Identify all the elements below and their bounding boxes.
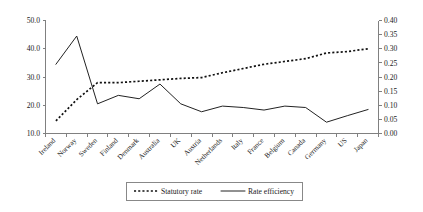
right-axis-tick-labels: 0.000.050.100.150.200.250.300.350.40 (384, 16, 397, 138)
x-axis-category-label: Italy (230, 136, 245, 151)
left-axis-tick-label: 30.0 (27, 73, 40, 82)
x-axis-category-label: Norway (56, 136, 78, 158)
left-axis-tick-label: 20.0 (27, 101, 40, 110)
chart-container: 10.020.030.040.050.0 0.000.050.100.150.2… (0, 0, 423, 212)
legend-label-rate-efficiency: Rate efficiency (248, 187, 294, 196)
chart-legend: Statutory rate Rate efficiency (126, 182, 302, 200)
right-axis-tick-label: 0.40 (384, 16, 397, 25)
right-axis-tick-label: 0.20 (384, 73, 397, 82)
x-axis-category-label: Australia (137, 136, 162, 161)
x-axis-category-labels: IrelandNorwaySwedenFinlandDenmarkAustral… (37, 136, 370, 167)
x-axis-category-label: Sweden (77, 136, 99, 158)
series-statutory-rate (56, 49, 368, 121)
left-axis-tick-label: 10.0 (27, 129, 40, 138)
x-axis-category-label: Germany (303, 136, 328, 161)
x-axis-category-label: US (337, 137, 349, 149)
x-axis-category-label: Japan (352, 136, 370, 154)
chart-plot: 10.020.030.040.050.0 0.000.050.100.150.2… (0, 0, 423, 212)
right-axis-tick-label: 0.00 (384, 129, 397, 138)
plot-axes (46, 21, 379, 134)
left-axis-tick-label: 50.0 (27, 16, 40, 25)
right-axis-tick-label: 0.10 (384, 101, 397, 110)
series-layer (56, 36, 368, 122)
right-axis-tick-label: 0.15 (384, 87, 397, 96)
right-axis-tick-label: 0.30 (384, 44, 397, 53)
right-axis-tick-label: 0.35 (384, 30, 397, 39)
left-axis-tick-labels: 10.020.030.040.050.0 (27, 16, 40, 138)
x-axis-category-label: UK (169, 136, 183, 150)
x-axis-category-label: France (246, 137, 265, 156)
right-axis-tick-label: 0.05 (384, 115, 397, 124)
series-rate-efficiency (56, 36, 368, 122)
x-axis-category-label: Belgium (263, 136, 286, 159)
x-axis-category-label: Ireland (37, 136, 57, 156)
x-axis-category-label: Denmark (116, 136, 141, 161)
left-axis-tick-label: 40.0 (27, 44, 40, 53)
legend-label-statutory-rate: Statutory rate (161, 187, 203, 196)
right-axis-tick-label: 0.25 (384, 59, 397, 68)
